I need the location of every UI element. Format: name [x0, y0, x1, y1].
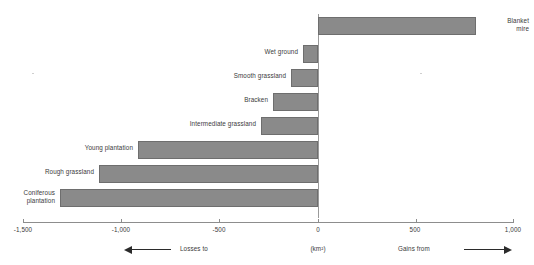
bar-label-wet-ground: Wet ground [148, 48, 298, 56]
left-arrow-line [131, 249, 171, 250]
bar-intermediate-grassland[interactable] [261, 117, 318, 135]
bar-rough-grassland[interactable] [99, 165, 318, 183]
plot-area: Blanket mire Wet ground Smooth grassland… [0, 14, 534, 218]
bar-label-bracken: Bracken [118, 96, 268, 104]
right-arrow-icon [504, 246, 512, 254]
axis-tick-label: 1,000 [483, 226, 534, 233]
chart-row: Coniferous plantation [0, 186, 534, 210]
bar-label-smooth-grassland: Smooth grassland [136, 72, 286, 80]
x-axis [23, 222, 513, 223]
axis-tick [416, 219, 417, 223]
direction-legend: Losses to (km²) Gains from [0, 245, 534, 263]
bar-label-blanket-mire: Blanket mire [419, 17, 529, 32]
chart-row: Bracken [0, 90, 534, 114]
right-arrow-line [464, 249, 505, 250]
axis-tick [121, 219, 122, 223]
bar-bracken[interactable] [273, 93, 318, 111]
chart-row: Rough grassland [0, 162, 534, 186]
axis-tick [219, 219, 220, 223]
axis-tick-label: 500 [385, 226, 445, 233]
axis-tick-label: -500 [189, 226, 249, 233]
chart-row: Blanket mire [0, 14, 534, 38]
chart-row: Smooth grassland [0, 66, 534, 90]
bar-smooth-grassland[interactable] [291, 69, 318, 87]
axis-tick-label: -1,000 [91, 226, 151, 233]
unit-label: (km²) [288, 245, 348, 252]
bar-label-coniferous-plantation: Coniferous plantation [0, 189, 55, 204]
axis-tick-label: 0 [288, 226, 348, 233]
bar-label-young-plantation: Young plantation [0, 144, 133, 152]
bar-young-plantation[interactable] [138, 141, 318, 159]
axis-tick [23, 219, 24, 223]
bar-label-intermediate-grassland: Intermediate grassland [106, 120, 256, 128]
bar-wet-ground[interactable] [303, 45, 318, 63]
gains-label: Gains from [398, 245, 430, 252]
bar-chart: Blanket mire Wet ground Smooth grassland… [0, 0, 534, 265]
chart-row: Wet ground [0, 42, 534, 66]
axis-tick [318, 219, 319, 223]
axis-tick [513, 219, 514, 223]
bar-coniferous-plantation[interactable] [60, 189, 318, 207]
chart-row: Intermediate grassland [0, 114, 534, 138]
bar-label-rough-grassland: Rough grassland [0, 168, 94, 176]
losses-label: Losses to [180, 245, 208, 252]
chart-row: Young plantation [0, 138, 534, 162]
axis-tick-label: -1,500 [0, 226, 53, 233]
